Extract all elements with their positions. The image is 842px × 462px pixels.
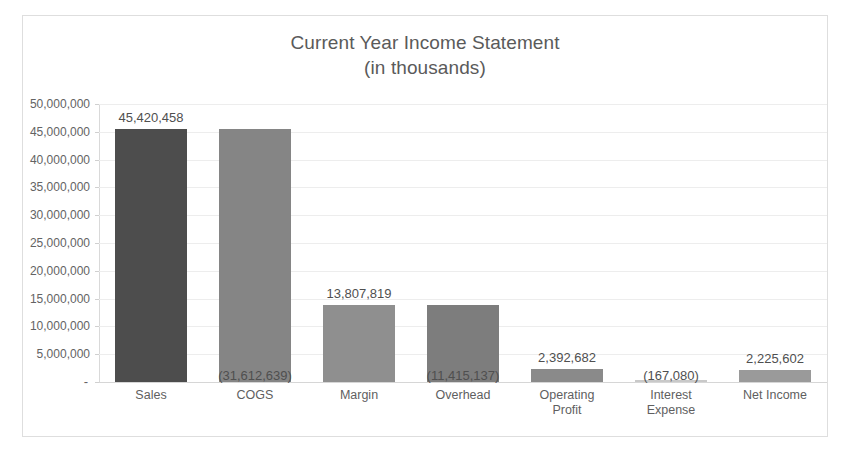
x-axis-label-line: Operating: [540, 388, 595, 402]
x-axis-category-label: Sales: [99, 388, 203, 403]
bar-data-label: 45,420,458: [118, 111, 183, 125]
x-axis-label-line: Profit: [515, 403, 619, 418]
y-axis-tick: [95, 382, 99, 383]
x-axis-label-line: Margin: [340, 388, 378, 402]
bar-group: 45,420,458: [99, 104, 203, 382]
plot-area: 50,000,00045,000,00040,000,00035,000,000…: [99, 104, 827, 382]
y-axis-tick-label: 20,000,000: [30, 265, 90, 277]
chart-container: Current Year Income Statement (in thousa…: [22, 15, 828, 437]
x-axis-label-line: Interest: [650, 388, 692, 402]
chart-title-main: Current Year Income Statement: [290, 32, 559, 53]
bar[interactable]: [115, 129, 187, 382]
bar-data-label: (11,415,137): [427, 369, 500, 383]
bar-data-label: 13,807,819: [326, 287, 391, 301]
bar-group: 2,392,682: [515, 104, 619, 382]
x-axis-category-label: Margin: [307, 388, 411, 403]
x-axis-category-labels: SalesCOGSMarginOverheadOperatingProfitIn…: [99, 388, 827, 434]
bar-data-label: (31,612,639): [218, 369, 292, 383]
x-axis-category-label: InterestExpense: [619, 388, 723, 418]
bar[interactable]: [219, 129, 291, 382]
bar-series: 45,420,458(31,612,639)13,807,819(11,415,…: [99, 104, 827, 382]
x-axis-category-label: Overhead: [411, 388, 515, 403]
bar-group: (11,415,137): [411, 104, 515, 382]
chart-title: Current Year Income Statement (in thousa…: [23, 30, 827, 80]
bar-data-label: 2,225,602: [746, 352, 804, 366]
x-axis-label-line: COGS: [237, 388, 274, 402]
bar-group: 2,225,602: [723, 104, 827, 382]
chart-subtitle: (in thousands): [23, 55, 827, 80]
y-axis-tick-label: 25,000,000: [30, 237, 90, 249]
y-axis-tick-label: 10,000,000: [30, 320, 90, 332]
y-axis-tick-label: 50,000,000: [30, 98, 90, 110]
bar[interactable]: [531, 369, 603, 382]
x-axis-label-line: Sales: [135, 388, 166, 402]
bar-group: (31,612,639): [203, 104, 307, 382]
bar-group: (167,080): [619, 104, 723, 382]
x-axis-label-line: Net Income: [743, 388, 807, 402]
y-axis-tick-label: 45,000,000: [30, 126, 90, 138]
y-axis-tick-label: -: [84, 376, 88, 388]
y-axis-tick-label: 30,000,000: [30, 209, 90, 221]
y-axis-tick-label: 40,000,000: [30, 154, 90, 166]
bar-data-label: (167,080): [643, 369, 699, 383]
x-axis-label-line: Overhead: [436, 388, 491, 402]
y-axis-tick-label: 5,000,000: [37, 348, 90, 360]
x-axis-category-label: Net Income: [723, 388, 827, 403]
y-axis-tick-label: 35,000,000: [30, 181, 90, 193]
x-axis-label-line: Expense: [619, 403, 723, 418]
bar[interactable]: [739, 370, 811, 382]
bar-data-label: 2,392,682: [538, 351, 596, 365]
y-axis-tick-label: 15,000,000: [30, 293, 90, 305]
bar-group: 13,807,819: [307, 104, 411, 382]
bar[interactable]: [323, 305, 395, 382]
x-axis-category-label: COGS: [203, 388, 307, 403]
x-axis-category-label: OperatingProfit: [515, 388, 619, 418]
